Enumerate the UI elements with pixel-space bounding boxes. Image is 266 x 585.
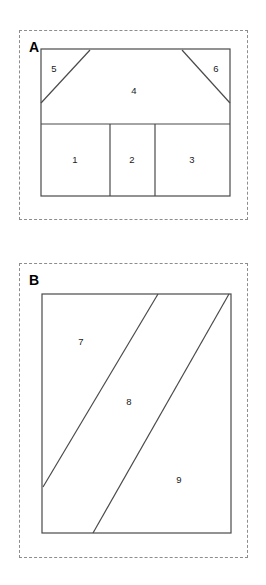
region-label-7: 7 [78, 337, 83, 347]
region-label-8: 8 [126, 397, 131, 407]
panel-b: B [19, 263, 248, 558]
panel-a-label: A [29, 40, 39, 54]
region-label-1: 1 [72, 155, 77, 165]
region-label-4: 4 [131, 86, 136, 96]
panel-a: A [19, 30, 248, 220]
region-label-3: 3 [189, 155, 194, 165]
region-label-6: 6 [213, 64, 218, 74]
region-label-9: 9 [176, 475, 181, 485]
panel-b-label: B [29, 273, 39, 287]
figure-root: A B 1 2 3 4 5 6 7 8 9 [0, 0, 266, 585]
region-label-5: 5 [51, 64, 56, 74]
region-label-2: 2 [129, 155, 134, 165]
